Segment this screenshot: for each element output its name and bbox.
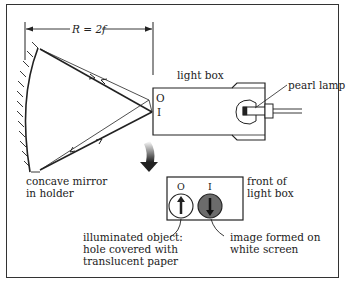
image-marker: I [157,106,161,118]
front-label-line2: light box [247,187,294,199]
mirror-label-line1: concave mirror [26,175,107,187]
front-image-marker: I [208,181,212,193]
object-marker: O [156,92,165,104]
front-object-marker: O [177,181,185,193]
light-rays [40,49,152,170]
object-label-line3: translucent paper [83,255,178,267]
image-label-line2: white screen [230,243,298,255]
dimension-label: R = 2f [72,23,106,35]
front-label-line1: front of [247,175,287,187]
object-label-line1: illuminated object: [83,231,183,243]
down-arrow-icon [140,141,158,172]
image-label-line1: image formed on [230,231,320,243]
pearl-lamp-label: pearl lamp [288,79,345,91]
light-box-label: light box [177,69,224,81]
concave-mirror [17,42,40,172]
mirror-label-line2: in holder [26,187,74,199]
object-label-line2: hole covered with [83,243,178,255]
